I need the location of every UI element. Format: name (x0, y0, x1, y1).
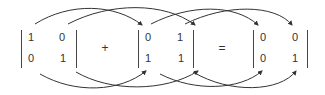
arrow-top-b2-c2 (185, 9, 292, 25)
arrow-top-a2-b2 (68, 8, 195, 25)
matrix-a-cell-r1c2: 0 (57, 32, 67, 43)
matrix-a-cell-r1c1: 1 (26, 32, 36, 43)
matrix-c-cell-r2c2: 1 (290, 53, 300, 64)
matrix-b-cell-r1c2: 1 (175, 32, 185, 43)
plus-operator: + (99, 42, 111, 54)
matrix-b-cell-r2c2: 1 (176, 53, 186, 64)
matrix-a-cell-r2c1: 0 (26, 53, 36, 64)
matrix-b-cell-r1c1: 0 (143, 32, 153, 43)
arrow-bottom-a2-b2 (76, 71, 198, 87)
diagram-canvas (0, 0, 325, 95)
matrix-b-cell-r2c1: 1 (143, 53, 153, 64)
matrix-c-cell-r1c2: 0 (290, 32, 300, 43)
matrix-c-cell-r1c1: 0 (258, 32, 268, 43)
matrix-a-cell-r2c2: 1 (58, 53, 68, 64)
arrow-bottom-b2-c2 (193, 71, 296, 88)
arrow-bottom-b1-c1 (160, 71, 262, 86)
matrix-c-cell-r2c1: 0 (258, 53, 268, 64)
arrow-top-a1-b1 (35, 8, 142, 25)
equals-operator: = (216, 42, 228, 54)
